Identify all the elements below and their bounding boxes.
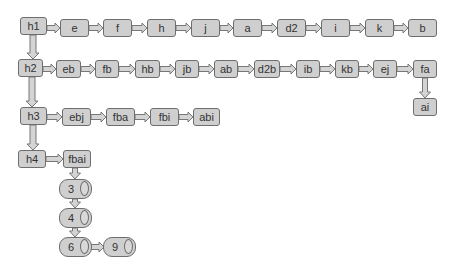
- arrow-right-icon: [350, 23, 365, 33]
- arrow-down-icon: [70, 228, 81, 237]
- node-a: a: [233, 19, 262, 37]
- arrow-right-icon: [320, 64, 335, 74]
- arrow-right-icon: [90, 242, 104, 252]
- node-b: b: [408, 19, 437, 37]
- arrow-right-icon: [306, 23, 321, 33]
- node-h: h: [147, 19, 176, 37]
- arrow-down-icon: [70, 199, 81, 208]
- node-h3: h3: [20, 107, 47, 125]
- node-eb: eb: [56, 60, 81, 78]
- cylinder-cap-icon: [124, 239, 133, 254]
- cylinder-cap-icon: [80, 239, 89, 254]
- arrow-right-icon: [397, 64, 413, 74]
- node-jb: jb: [175, 60, 199, 78]
- arrow-right-icon: [394, 23, 408, 33]
- node-h4: h4: [18, 150, 46, 168]
- arrow-right-icon: [359, 64, 373, 74]
- arrow-right-icon: [238, 64, 254, 74]
- node-h2: h2: [18, 59, 43, 77]
- node-fa: fa: [413, 60, 437, 78]
- cylinder-cap-icon: [80, 210, 89, 225]
- node-hb: hb: [135, 60, 160, 78]
- arrow-right-icon: [91, 112, 106, 122]
- arrow-right-icon: [47, 112, 62, 122]
- node-9-label: 9: [112, 241, 118, 253]
- arrow-right-icon: [43, 64, 56, 74]
- node-fba: fba: [106, 108, 135, 126]
- arrow-down-icon: [26, 77, 38, 107]
- node-fbai: fbai: [63, 150, 91, 168]
- node-i: i: [321, 19, 350, 37]
- arrow-down-icon: [70, 168, 81, 179]
- node-4-label: 4: [68, 212, 74, 224]
- node-d2b: d2b: [254, 60, 280, 78]
- arrow-right-icon: [262, 23, 277, 33]
- arrow-layer: [0, 0, 452, 273]
- arrow-right-icon: [135, 112, 150, 122]
- arrow-right-icon: [132, 23, 147, 33]
- node-e: e: [60, 19, 89, 37]
- cylinder-cap-icon: [80, 181, 89, 196]
- node-6-label: 6: [68, 241, 74, 253]
- node-j: j: [191, 19, 220, 37]
- node-3-label: 3: [68, 183, 74, 195]
- node-ai: ai: [413, 98, 437, 116]
- node-h1: h1: [20, 17, 47, 35]
- node-abi: abi: [193, 108, 220, 126]
- arrow-right-icon: [220, 23, 233, 33]
- node-fbi: fbi: [150, 108, 179, 126]
- arrow-down-icon: [420, 78, 431, 98]
- arrow-right-icon: [160, 64, 175, 74]
- node-4: 4: [59, 208, 92, 228]
- arrow-right-icon: [176, 23, 191, 33]
- node-3: 3: [59, 179, 92, 199]
- arrow-right-icon: [89, 23, 103, 33]
- arrow-right-icon: [280, 64, 296, 74]
- node-kb: kb: [335, 60, 359, 78]
- node-9: 9: [103, 237, 136, 257]
- node-f: f: [103, 19, 132, 37]
- arrow-down-icon: [27, 35, 39, 59]
- node-ab: ab: [214, 60, 238, 78]
- arrow-down-icon: [27, 125, 39, 150]
- diagram-canvas: h1 e f h j a d2 i k b h2 eb fb hb jb ab …: [0, 0, 452, 273]
- node-fb: fb: [95, 60, 119, 78]
- node-6: 6: [59, 237, 92, 257]
- node-ib: ib: [296, 60, 320, 78]
- arrow-right-icon: [179, 112, 193, 122]
- node-d2: d2: [277, 19, 306, 37]
- node-k: k: [365, 19, 394, 37]
- arrow-right-icon: [119, 64, 135, 74]
- node-ebj: ebj: [62, 108, 91, 126]
- arrow-right-icon: [199, 64, 214, 74]
- arrow-right-icon: [47, 23, 60, 33]
- arrow-right-icon: [81, 64, 95, 74]
- node-ej: ej: [373, 60, 397, 78]
- arrow-right-icon: [46, 154, 63, 164]
